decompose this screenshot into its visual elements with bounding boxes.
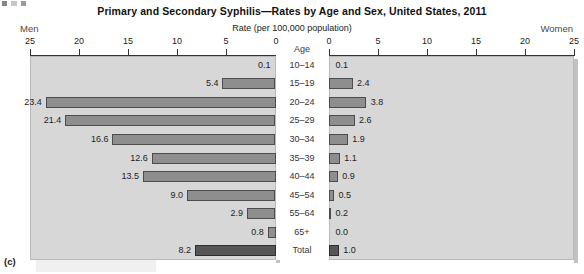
men-bar-30-34-value: 16.6 bbox=[91, 134, 109, 145]
women-bar-30-34-value: 1.9 bbox=[352, 134, 365, 145]
men-tick-20 bbox=[79, 49, 80, 56]
men-bar-30-34 bbox=[112, 134, 275, 145]
women-bar-65--value: 0.0 bbox=[336, 227, 349, 238]
men-bar-40-44-value: 13.5 bbox=[121, 171, 139, 182]
women-bar-20-24 bbox=[329, 97, 366, 108]
men-bar-20-24-value: 23.4 bbox=[24, 97, 42, 108]
men-bar-35-39 bbox=[152, 153, 276, 164]
men-bar-65- bbox=[268, 227, 276, 238]
women-bar-40-44-value: 0.9 bbox=[342, 171, 355, 182]
age-column-header: Age bbox=[276, 44, 328, 54]
women-tick-label-15: 15 bbox=[471, 36, 481, 46]
women-bar-total bbox=[329, 245, 339, 256]
age-label-65-: 65+ bbox=[276, 227, 328, 237]
women-tick-15 bbox=[476, 49, 477, 56]
women-tick-5 bbox=[378, 49, 379, 56]
men-tick-5 bbox=[226, 49, 227, 56]
figure-letter: (c) bbox=[4, 256, 16, 267]
men-bar-55-64-value: 2.9 bbox=[231, 208, 244, 219]
age-label-35-39: 35–39 bbox=[276, 153, 328, 163]
men-bar-55-64 bbox=[247, 208, 275, 219]
women-tick-label-25: 25 bbox=[569, 36, 579, 46]
women-bar-55-64 bbox=[329, 208, 331, 219]
men-tick-label-5: 5 bbox=[223, 36, 228, 46]
women-bar-55-64-value: 0.2 bbox=[336, 208, 349, 219]
women-tick-label-5: 5 bbox=[375, 36, 380, 46]
men-bar-40-44 bbox=[143, 171, 276, 182]
women-bar-30-34 bbox=[329, 134, 348, 145]
women-bar-35-39 bbox=[329, 153, 340, 164]
age-label-10-14: 10–14 bbox=[276, 60, 328, 70]
men-bar-total bbox=[195, 245, 276, 256]
women-tick-20 bbox=[525, 49, 526, 56]
women-panel-edge bbox=[574, 59, 578, 263]
men-tick-25 bbox=[30, 49, 31, 56]
age-label-55-64: 55–64 bbox=[276, 208, 328, 218]
women-bar-40-44 bbox=[329, 171, 338, 182]
men-tick-label-15: 15 bbox=[123, 36, 133, 46]
men-tick-label-20: 20 bbox=[74, 36, 84, 46]
women-tick-10 bbox=[427, 49, 428, 56]
women-bar-45-54-value: 0.5 bbox=[338, 190, 351, 201]
men-bar-45-54 bbox=[187, 190, 275, 201]
men-tick-10 bbox=[177, 49, 178, 56]
men-bar-25-29 bbox=[65, 115, 275, 126]
women-tick-25 bbox=[574, 49, 575, 56]
men-bar-10-14-value: 0.1 bbox=[258, 60, 271, 71]
women-bar-10-14-value: 0.1 bbox=[336, 60, 349, 71]
figure-panel-c: Primary and Secondary Syphilis—Rates by … bbox=[0, 0, 584, 274]
men-bar-15-19 bbox=[222, 78, 275, 89]
age-label-total: Total bbox=[276, 245, 328, 255]
women-bar-total-value: 1.0 bbox=[343, 245, 356, 256]
men-bar-65--value: 0.8 bbox=[251, 227, 264, 238]
x-axis-title: Rate (per 100,000 population) bbox=[0, 23, 584, 33]
age-label-40-44: 40–44 bbox=[276, 171, 328, 181]
women-bar-35-39-value: 1.1 bbox=[344, 153, 357, 164]
women-tick-label-20: 20 bbox=[520, 36, 530, 46]
men-bar-total-value: 8.2 bbox=[178, 245, 191, 256]
men-tick-label-10: 10 bbox=[172, 36, 182, 46]
women-bar-15-19 bbox=[329, 78, 353, 89]
women-bar-20-24-value: 3.8 bbox=[371, 97, 384, 108]
women-tick-0 bbox=[329, 49, 330, 56]
age-label-30-34: 30–34 bbox=[276, 134, 328, 144]
men-tick-15 bbox=[128, 49, 129, 56]
men-tick-label-25: 25 bbox=[25, 36, 35, 46]
women-bar-25-29 bbox=[329, 115, 355, 126]
women-bar-45-54 bbox=[329, 190, 334, 201]
women-bar-25-29-value: 2.6 bbox=[359, 115, 372, 126]
women-tick-label-10: 10 bbox=[422, 36, 432, 46]
men-bar-25-29-value: 21.4 bbox=[44, 115, 62, 126]
age-label-20-24: 20–24 bbox=[276, 97, 328, 107]
men-bar-45-54-value: 9.0 bbox=[171, 190, 184, 201]
age-label-25-29: 25–29 bbox=[276, 115, 328, 125]
men-bar-20-24 bbox=[46, 97, 276, 108]
men-bar-35-39-value: 12.6 bbox=[130, 153, 148, 164]
men-bar-15-19-value: 5.4 bbox=[206, 78, 219, 89]
women-bar-15-19-value: 2.4 bbox=[357, 78, 370, 89]
age-label-45-54: 45–54 bbox=[276, 190, 328, 200]
chart-title: Primary and Secondary Syphilis—Rates by … bbox=[0, 5, 584, 17]
age-label-15-19: 15–19 bbox=[276, 78, 328, 88]
